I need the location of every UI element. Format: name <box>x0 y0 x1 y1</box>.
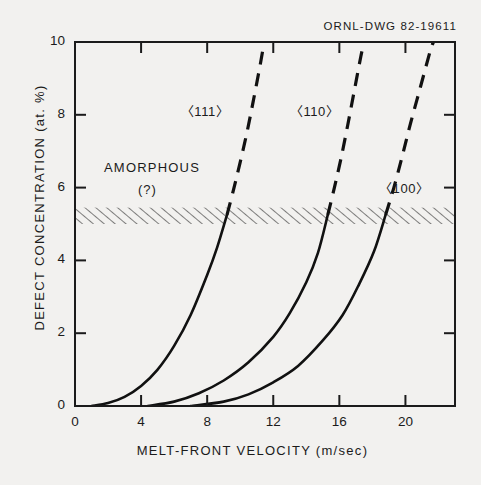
curve-110 <box>148 215 328 406</box>
y-tick-label-10: 10 <box>35 33 65 48</box>
x-tick-label-8: 8 <box>192 414 222 429</box>
x-tick-label-4: 4 <box>126 414 156 429</box>
x-tick-label-16: 16 <box>324 414 354 429</box>
x-tick-label-0: 0 <box>60 414 90 429</box>
figure-container: ORNL-DWG 82-19611 DEFECT CONCENTRATION (… <box>0 0 481 485</box>
x-tick-label-12: 12 <box>258 414 288 429</box>
y-tick-label-8: 8 <box>35 106 65 121</box>
y-tick-label-2: 2 <box>35 324 65 339</box>
y-tick-label-4: 4 <box>35 251 65 266</box>
y-tick-label-6: 6 <box>35 179 65 194</box>
annotation-label-100: 〈100〉 <box>379 178 430 197</box>
curve-dashed-110 <box>328 42 364 215</box>
y-tick-label-0: 0 <box>35 397 65 412</box>
annotation-label-110: 〈110〉 <box>290 101 340 120</box>
curve-111 <box>92 215 227 406</box>
annotation-label-111: 〈111〉 <box>181 101 230 120</box>
x-tick-label-20: 20 <box>390 414 420 429</box>
amorphous-band <box>76 208 454 224</box>
curve-dashed-111 <box>227 42 264 215</box>
curve-100 <box>191 215 386 406</box>
plot-area <box>0 0 481 485</box>
